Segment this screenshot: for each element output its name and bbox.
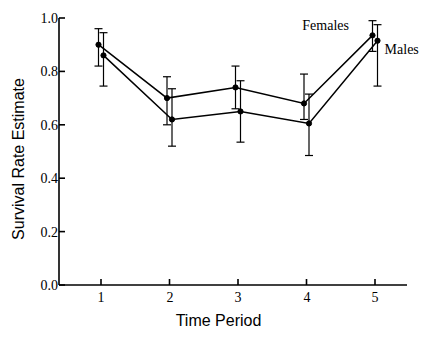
- marker-males-4: [306, 121, 311, 126]
- x-tick-label-5: 5: [360, 290, 390, 306]
- x-axis-title: Time Period: [0, 312, 437, 330]
- y-tick-label-0.4: 0.4: [18, 171, 58, 187]
- marker-males-5: [375, 38, 380, 43]
- y-tick-label-0.6: 0.6: [18, 118, 58, 134]
- series-females: [95, 21, 377, 125]
- marker-males-2: [169, 117, 174, 122]
- marker-females-3: [233, 85, 238, 90]
- y-tick-label-1.0: 1.0: [18, 11, 58, 27]
- series-label-females: Females: [302, 18, 349, 34]
- series-males: [100, 25, 382, 156]
- chart-figure: Survival Rate Estimate Time Period 1.0 0…: [0, 0, 437, 342]
- x-tick-label-3: 3: [223, 290, 253, 306]
- marker-males-1: [101, 53, 106, 58]
- marker-males-3: [238, 109, 243, 114]
- y-tick-label-0.0: 0.0: [18, 278, 58, 294]
- series-label-males: Males: [385, 42, 419, 58]
- x-tick-label-2: 2: [155, 290, 185, 306]
- x-tick-label-4: 4: [292, 290, 322, 306]
- x-tick-label-1: 1: [86, 290, 116, 306]
- y-tick-label-0.8: 0.8: [18, 64, 58, 80]
- marker-females-1: [96, 42, 101, 47]
- marker-females-2: [164, 96, 169, 101]
- marker-females-4: [301, 101, 306, 106]
- y-tick-label-0.2: 0.2: [18, 225, 58, 241]
- marker-females-5: [370, 33, 375, 38]
